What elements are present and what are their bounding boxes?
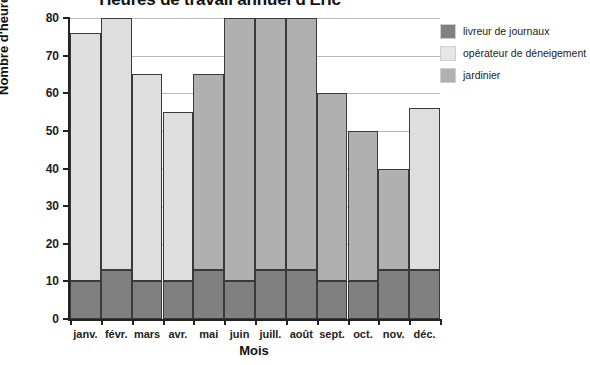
x-axis-tick-label: déc. <box>414 328 436 340</box>
bar-segment[interactable] <box>317 281 348 319</box>
chart-container: Heures de travail annuel d'Éric 01020304… <box>0 0 590 365</box>
y-axis-tick <box>63 280 70 282</box>
bar-column[interactable] <box>317 18 348 319</box>
x-axis-tick <box>163 319 165 325</box>
y-axis-tick-label: 10 <box>46 274 59 288</box>
bar-segment[interactable] <box>224 281 255 319</box>
x-axis-tick-label: août <box>290 328 313 340</box>
chart-title: Heures de travail annuel d'Éric <box>0 0 440 10</box>
y-axis-tick <box>63 318 70 320</box>
bar-column[interactable] <box>193 18 224 319</box>
legend-item-label: livreur de journaux <box>463 26 549 38</box>
bar-segment[interactable] <box>132 281 163 319</box>
x-axis-tick <box>286 319 288 325</box>
y-axis-tick <box>63 168 70 170</box>
y-axis-tick <box>63 130 70 132</box>
x-axis-tick <box>317 319 319 325</box>
x-axis-tick <box>224 319 226 325</box>
bar-segment[interactable] <box>193 74 224 270</box>
bar-segment[interactable] <box>224 18 255 281</box>
x-axis-tick <box>70 319 72 325</box>
bar-segment[interactable] <box>70 281 101 319</box>
x-axis-tick-label: juin <box>230 328 250 340</box>
bars-layer: janv.févr.marsavr.maijuinjuill.aoûtsept.… <box>70 18 440 319</box>
legend-item[interactable]: opérateur de déneigement <box>440 46 590 61</box>
x-axis-tick <box>193 319 195 325</box>
bar-segment[interactable] <box>255 18 286 270</box>
bar-column[interactable] <box>286 18 317 319</box>
x-axis-tick <box>409 319 411 325</box>
bar-segment[interactable] <box>286 270 317 319</box>
x-axis-tick <box>440 319 442 325</box>
x-axis-tick-label: avr. <box>168 328 187 340</box>
bar-segment[interactable] <box>163 281 194 319</box>
bar-segment[interactable] <box>286 18 317 270</box>
bar-column[interactable] <box>101 18 132 319</box>
y-axis-tick-label: 40 <box>46 162 59 176</box>
x-axis-title: Mois <box>68 343 440 358</box>
x-axis-tick-label: sept. <box>319 328 345 340</box>
y-axis-tick-label: 30 <box>46 199 59 213</box>
legend-swatch-icon <box>440 68 456 83</box>
y-axis-tick-label: 20 <box>46 237 59 251</box>
chart-legend: livreur de journauxopérateur de déneigem… <box>440 24 590 90</box>
bar-segment[interactable] <box>378 270 409 319</box>
y-axis-tick-label: 70 <box>46 49 59 63</box>
bar-column[interactable] <box>163 18 194 319</box>
legend-swatch-icon <box>440 24 456 39</box>
x-axis-tick <box>378 319 380 325</box>
legend-swatch-icon <box>440 46 456 61</box>
bar-segment[interactable] <box>101 18 132 270</box>
bar-segment[interactable] <box>409 270 440 319</box>
legend-item[interactable]: jardinier <box>440 68 590 83</box>
bar-segment[interactable] <box>378 169 409 271</box>
y-axis-tick <box>63 17 70 19</box>
x-axis-tick-label: mai <box>199 328 218 340</box>
y-axis-tick-label: 0 <box>52 312 59 326</box>
bar-column[interactable] <box>255 18 286 319</box>
legend-item-label: jardinier <box>463 70 500 82</box>
bar-segment[interactable] <box>70 33 101 281</box>
y-axis-title: Nombre d'heures <box>0 0 11 95</box>
y-axis-tick <box>63 55 70 57</box>
bar-column[interactable] <box>132 18 163 319</box>
bar-column[interactable] <box>70 18 101 319</box>
bar-segment[interactable] <box>163 112 194 281</box>
y-axis-tick <box>63 92 70 94</box>
y-axis-tick-label: 80 <box>46 11 59 25</box>
bar-segment[interactable] <box>348 281 379 319</box>
legend-item[interactable]: livreur de journaux <box>440 24 590 39</box>
x-axis-tick <box>101 319 103 325</box>
plot-area: 01020304050607080 janv.févr.marsavr.maij… <box>68 18 440 321</box>
x-axis-tick-label: janv. <box>73 328 97 340</box>
x-axis-tick-label: mars <box>134 328 160 340</box>
bar-segment[interactable] <box>317 93 348 281</box>
bar-column[interactable] <box>348 18 379 319</box>
y-axis-tick-label: 60 <box>46 86 59 100</box>
x-axis-tick-label: févr. <box>105 328 128 340</box>
bar-segment[interactable] <box>348 131 379 282</box>
bar-segment[interactable] <box>409 108 440 270</box>
y-axis-tick-label: 50 <box>46 124 59 138</box>
x-axis-tick <box>255 319 257 325</box>
bar-column[interactable] <box>224 18 255 319</box>
x-axis-tick <box>348 319 350 325</box>
y-axis-tick <box>63 205 70 207</box>
bar-segment[interactable] <box>101 270 132 319</box>
y-axis-tick <box>63 243 70 245</box>
bar-column[interactable] <box>378 18 409 319</box>
bar-segment[interactable] <box>193 270 224 319</box>
bar-segment[interactable] <box>132 74 163 281</box>
x-axis-tick-label: nov. <box>383 328 405 340</box>
bar-column[interactable] <box>409 18 440 319</box>
bar-segment[interactable] <box>255 270 286 319</box>
legend-item-label: opérateur de déneigement <box>463 48 586 60</box>
x-axis-tick <box>132 319 134 325</box>
x-axis-tick-label: juill. <box>259 328 281 340</box>
x-axis-tick-label: oct. <box>353 328 373 340</box>
